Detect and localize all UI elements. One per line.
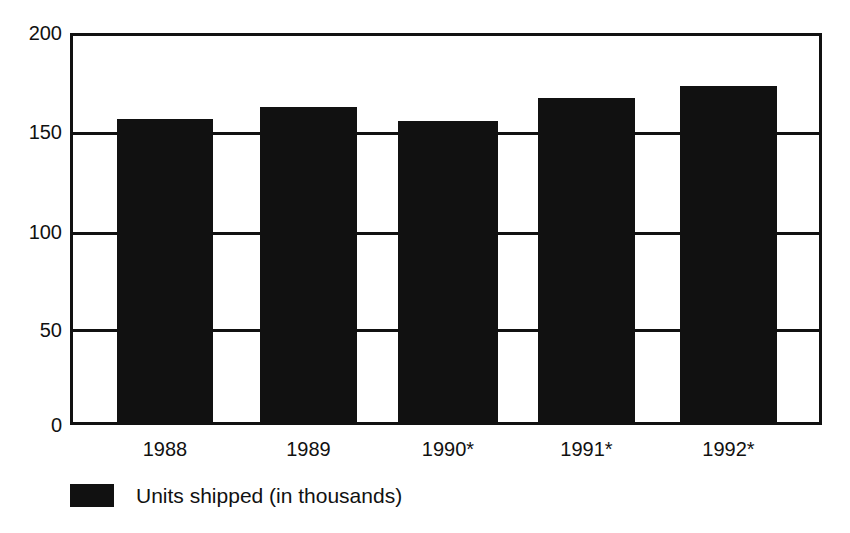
chart-legend: Units shipped (in thousands) [70,484,402,507]
bar-1991 [538,98,635,425]
bar-chart: 200 150 100 50 0 1988 1989 1990* 1991* 1… [0,0,850,533]
y-axis: 200 150 100 50 0 [0,0,62,533]
bar-1990 [398,121,498,425]
x-tick-label-1989: 1989 [260,437,357,461]
x-tick-label-1988: 1988 [117,437,213,461]
x-axis: 1988 1989 1990* 1991* 1992* [70,437,822,467]
y-tick-label-150: 150 [4,122,62,142]
bar-1989 [260,107,357,425]
x-tick-label-1990: 1990* [398,437,498,461]
y-tick-label-50: 50 [4,320,62,340]
bar-1992 [680,86,777,425]
legend-label-units-shipped: Units shipped (in thousands) [136,484,402,507]
y-tick-label-100: 100 [4,222,62,242]
bars-layer [70,33,822,425]
legend-swatch-units-shipped [70,484,114,507]
y-tick-label-0: 0 [4,415,62,435]
y-tick-label-200: 200 [4,23,62,43]
x-tick-label-1991: 1991* [538,437,635,461]
x-tick-label-1992: 1992* [680,437,777,461]
bar-1988 [117,119,213,425]
